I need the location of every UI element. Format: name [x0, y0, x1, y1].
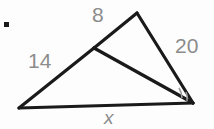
segment-ac-20 [137, 13, 193, 103]
side-label-14: 14 [28, 50, 51, 71]
side-label-8: 8 [92, 4, 104, 25]
list-bullet-icon [3, 21, 10, 28]
geometry-figure: 8 14 20 x [0, 0, 214, 129]
side-label-x: x [104, 108, 114, 127]
side-label-20: 20 [175, 35, 198, 56]
